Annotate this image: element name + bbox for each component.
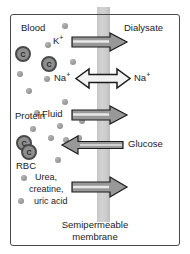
cell-glyph: C	[20, 51, 25, 58]
solute-dot	[21, 175, 27, 181]
solute-dot	[57, 123, 63, 129]
sodium-charge-blood: +	[66, 71, 70, 78]
sodium-symbol-dialysate: Na	[134, 72, 146, 83]
solute-dot	[18, 198, 24, 204]
red-blood-cell: C	[21, 144, 37, 160]
solute-dot	[70, 59, 76, 65]
sodium-charge-dialysate: +	[146, 71, 150, 78]
solute-dot	[45, 42, 51, 48]
dialysate-compartment-label: Dialysate	[124, 22, 163, 33]
cell-glyph: C	[46, 61, 51, 68]
solute-dot	[55, 157, 61, 163]
waste-arrow	[72, 177, 128, 197]
potassium-arrow	[72, 33, 128, 51]
blood-cell: C	[41, 56, 57, 72]
dialysis-diagram: Blood Dialysate C C C C Protein RBC K+ N…	[0, 0, 190, 254]
sodium-label-dialysate: Na+	[134, 72, 150, 83]
fluid-arrow	[72, 106, 128, 124]
rbc-label: RBC	[16, 160, 36, 171]
membrane-caption-line-1: Semipermeable	[10, 219, 180, 231]
protein-label: Protein	[15, 110, 45, 121]
sodium-symbol-blood: Na	[54, 72, 66, 83]
waste-label-line-2: creatine,	[29, 184, 64, 195]
glucose-label: Glucose	[128, 138, 163, 149]
solute-dot	[17, 71, 23, 77]
solute-dot	[48, 135, 54, 141]
sodium-label-blood: Na+	[54, 72, 70, 83]
potassium-label: K+	[53, 35, 63, 46]
cell-glyph: C	[26, 149, 31, 156]
solute-dot	[44, 76, 50, 82]
sodium-bidirectional-arrow	[76, 68, 130, 89]
potassium-charge: +	[59, 34, 63, 41]
solute-dot	[26, 88, 32, 94]
solute-dot	[62, 99, 68, 105]
blood-cell: C	[15, 46, 31, 62]
fluid-label: Fluid	[42, 108, 63, 119]
membrane-caption-line-2: membrane	[10, 231, 180, 243]
solute-dot	[62, 23, 68, 29]
glucose-arrow	[62, 136, 124, 154]
waste-label-line-3: uric acid	[34, 196, 68, 207]
blood-compartment-label: Blood	[21, 22, 45, 33]
solute-dot	[30, 126, 36, 132]
waste-label-line-1: Urea,	[35, 172, 57, 183]
